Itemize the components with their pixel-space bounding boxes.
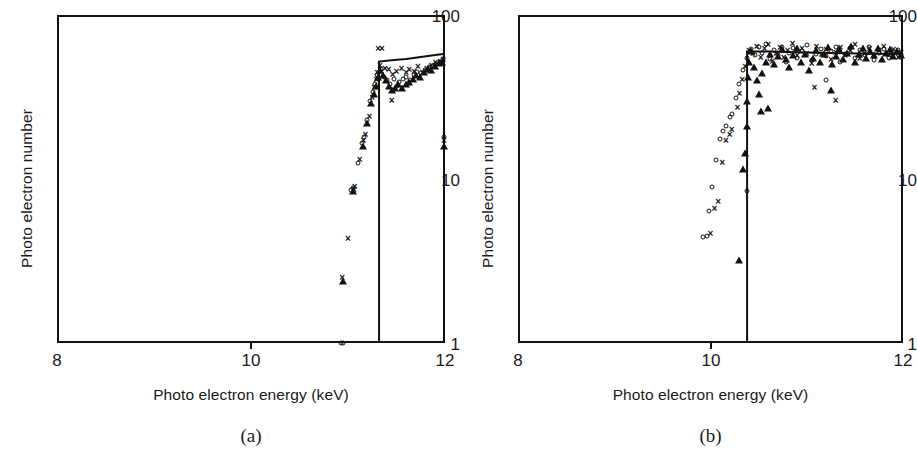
xlabel-a: Photo electron energy (keV): [57, 386, 445, 404]
figure-container: 100 10 1 8 10 12 Photo electron number P…: [0, 0, 917, 461]
xtick-mark-a-10: [250, 343, 252, 349]
xtick-label-a-12: 12: [430, 352, 460, 369]
ytick-label-b-10: 10: [866, 172, 917, 189]
panel-b: 100 10 1 8 10 12 Photo electron number P…: [460, 0, 917, 461]
panel-caption-a: (a): [57, 425, 445, 447]
plot-frame-a: [57, 15, 445, 343]
ytick-label-a-10: 10: [410, 172, 460, 189]
ytick-label-a-100: 100: [410, 8, 460, 25]
ylabel-b: Photo electron number: [479, 109, 497, 268]
xtick-label-b-8: 8: [503, 352, 533, 369]
plot-frame-b: [518, 15, 903, 343]
xlabel-b: Photo electron energy (keV): [518, 386, 903, 404]
ytick-label-b-100: 100: [866, 8, 917, 25]
panel-caption-b: (b): [518, 425, 903, 447]
xtick-label-a-10: 10: [236, 352, 266, 369]
xtick-label-a-8: 8: [42, 352, 72, 369]
xtick-label-b-12: 12: [888, 352, 917, 369]
ylabel-a: Photo electron number: [18, 109, 36, 268]
xtick-mark-b-10: [710, 343, 712, 349]
xtick-label-b-10: 10: [696, 352, 726, 369]
panel-a: 100 10 1 8 10 12 Photo electron number P…: [0, 0, 460, 461]
